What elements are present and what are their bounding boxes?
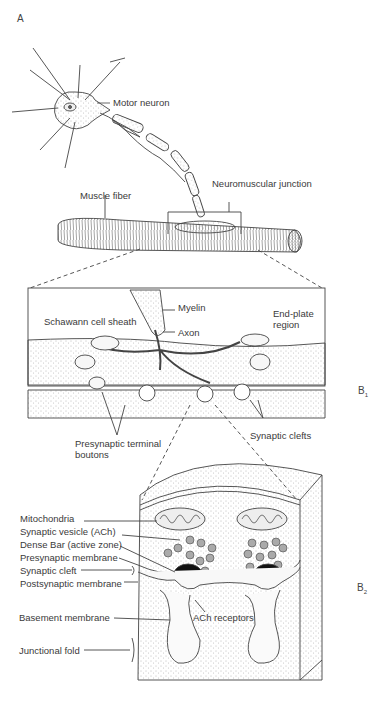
label-axon: Axon — [178, 327, 200, 338]
label-mitochondria: Mitochondria — [20, 513, 74, 524]
label-motor-neuron: Motor neuron — [113, 97, 170, 108]
label-neuromuscular-junction: Neuromuscular junction — [212, 178, 312, 189]
label-postsynaptic-membrane: Postsynaptic membrane — [20, 578, 122, 589]
label-junctional-fold: Junctional fold — [19, 645, 80, 656]
label-synaptic-vesicle: Synaptic vesicle (ACh) — [20, 526, 116, 537]
panel-b2-letter: B — [357, 582, 364, 593]
label-dense-bar: Dense Bar (active zone) — [20, 539, 122, 550]
panel-b2-subscript: 2 — [364, 589, 367, 595]
label-muscle-fiber: Muscle fiber — [80, 190, 131, 201]
label-myelin: Myelin — [178, 302, 205, 313]
panel-label-a: A — [17, 13, 24, 24]
label-schwann-cell-sheath: Schawann cell sheath — [44, 316, 136, 327]
label-end-plate-line1: End-plate — [273, 308, 314, 319]
label-basement-membrane: Basement membrane — [19, 612, 110, 623]
muscle-fiber-drawing — [58, 195, 302, 252]
label-ach-receptors: ACh receptors — [193, 612, 254, 623]
neuromuscular-junction-diagram — [0, 0, 387, 703]
label-presynaptic-terminal-line1: Presynaptic terminal — [75, 438, 161, 449]
panel-b1-letter: B — [358, 385, 365, 396]
synapse-block-drawing — [81, 464, 322, 680]
label-end-plate-line2: region — [273, 319, 299, 330]
panel-label-b2: B2 — [357, 582, 367, 595]
panel-label-b1: B1 — [358, 385, 368, 398]
label-synaptic-cleft: Synaptic cleft — [20, 565, 77, 576]
panel-b1-subscript: 1 — [365, 392, 368, 398]
label-presynaptic-terminal-line2: boutons — [75, 449, 109, 460]
label-presynaptic-membrane: Presynaptic membrane — [20, 552, 118, 563]
label-synaptic-clefts: Synaptic clefts — [250, 430, 311, 441]
